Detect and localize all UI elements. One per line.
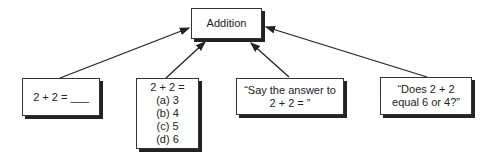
arrow-verbal-prompt-to-addition	[251, 43, 289, 77]
option-a: (a) 3	[156, 94, 179, 107]
root-label: Addition	[207, 17, 247, 30]
arrow-yes-no-to-addition	[266, 27, 427, 77]
verbal-prompt-node: “Say the answer to 2 + 2 = ”	[236, 78, 344, 115]
option-d: (d) 6	[156, 133, 179, 146]
node-line: equal 6 or 4?”	[392, 96, 460, 109]
multiple-choice-node: 2 + 2 = (a) 3 (b) 4 (c) 5 (d) 6	[136, 78, 199, 149]
node-line: 2 + 2 = ___	[33, 91, 89, 104]
node-line: “Say the answer to	[244, 84, 336, 97]
node-line: 2 + 2 =	[150, 81, 184, 94]
option-c: (c) 5	[157, 120, 179, 133]
arrow-fill-in-to-addition	[60, 28, 189, 78]
yes-no-question-node: “Does 2 + 2 equal 6 or 4?”	[380, 77, 472, 115]
arrow-multiple-choice-to-addition	[166, 42, 205, 78]
option-b: (b) 4	[156, 107, 179, 120]
node-line: “Does 2 + 2	[397, 83, 454, 96]
node-line: 2 + 2 = ”	[270, 97, 311, 110]
fill-in-node: 2 + 2 = ___	[22, 78, 100, 116]
addition-root-node: Addition	[191, 8, 262, 39]
